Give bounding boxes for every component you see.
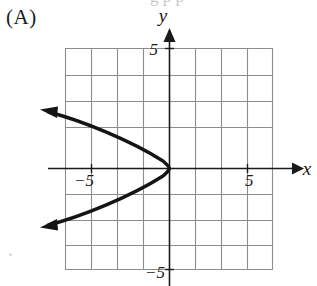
x-positive-tick-label: 5 <box>245 171 254 190</box>
parabola-lower-arrow <box>40 219 58 231</box>
parabola-figure: g p p (A) <box>0 0 317 286</box>
x-negative-tick-label: −5 <box>74 171 94 190</box>
parabola-upper-arrow <box>40 107 58 119</box>
y-axis-label: y <box>157 5 168 26</box>
y-positive-tick-label: 5 <box>150 40 159 59</box>
axis-lines <box>48 32 293 286</box>
y-axis-arrow <box>164 28 176 42</box>
graph-canvas: y x 5 −5 −5 5 <box>0 0 317 286</box>
x-axis-label: x <box>302 158 312 179</box>
y-negative-tick-label: −5 <box>145 263 165 282</box>
